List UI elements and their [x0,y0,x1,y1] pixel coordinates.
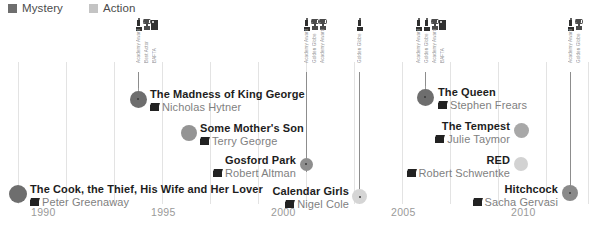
trophy-cup-icon [143,18,150,31]
award-label: Academy Award [567,33,574,63]
clapperboard-icon [150,103,159,111]
axis-tick-2005: 2005 [391,206,416,218]
award-label: Academy Award [415,33,422,63]
clapperboard-icon [285,200,294,208]
legend-item-mystery[interactable]: Mystery [8,2,63,14]
film-director: Nigel Cole [297,198,349,210]
gridline [18,62,19,204]
data-point-bubble[interactable] [181,125,197,141]
clapperboard-icon [200,137,209,145]
film-director: Terry George [212,135,277,147]
data-point-bubble[interactable] [417,89,434,106]
legend-swatch-action [89,4,98,13]
clapperboard-icon [473,198,482,206]
oscar-statuette-icon [356,18,363,31]
clapperboard-icon [213,169,222,177]
gridline [588,62,589,204]
data-point-label: The Tempest Julie Taymor [390,120,510,145]
film-director: Nicholas Hytner [162,101,241,113]
data-point-bubble[interactable] [9,185,27,203]
award-label: Academy Award [303,33,310,63]
film-title: Gosford Park [176,154,296,166]
legend-swatch-mystery [8,4,17,13]
film-title: The Queen [438,86,527,98]
data-point-label: The Cook, the Thief, His Wife and Her Lo… [30,183,263,208]
film-director: Stephen Frears [450,99,527,111]
award-label: Golden Globe [311,33,318,63]
trophy-cup-icon [311,18,318,31]
film-title: The Cook, the Thief, His Wife and Her Lo… [30,183,263,195]
film-title: Calendar Girls [229,185,349,197]
award-label: Golden Globe [356,33,363,63]
award-label-row: Academy Award Golden Globe [567,33,582,63]
award-label: Golden Globe [575,33,582,63]
award-stem [570,72,571,200]
film-director: Robert Altman [225,167,296,179]
data-point-label: Gosford Park Robert Altman [176,154,296,179]
data-point-label: Calendar Girls Nigel Cole [229,185,349,210]
trophy-cup-icon [575,18,582,31]
legend: Mystery Action [8,2,136,14]
oscar-statuette-icon [423,18,430,31]
legend-item-action[interactable]: Action [89,2,136,14]
award-label: Best Actor [143,33,150,63]
film-director: Robert Schwentke [419,167,510,179]
gridline [354,62,355,204]
award-stem [359,72,360,204]
data-point-bubble[interactable] [352,189,367,204]
award-label: Academy Award [319,33,326,63]
film-director: Peter Greenaway [42,196,129,208]
award-label-row: Academy Award Best Actor BAFTA [135,33,158,63]
award-label: BAFTA [151,33,158,63]
award-label: Academy Award [431,33,438,63]
film-director: Sacha Gervasi [485,196,558,208]
award-plaque-icon [151,18,158,31]
data-point-label: The Madness of King George Nicholas Hytn… [150,88,305,113]
data-point-bubble[interactable] [562,185,578,201]
award-label-row: Golden Globe [356,33,363,63]
film-title: Hitchcock [438,183,558,195]
data-point-bubble[interactable] [130,91,147,108]
film-director: Julie Taymor [447,133,510,145]
film-title: The Madness of King George [150,88,305,100]
data-point-bubble[interactable] [300,158,313,171]
legend-label-mystery: Mystery [22,2,63,14]
award-label: BAFTA [439,33,446,63]
award-plaque-icon [439,18,446,31]
data-point-label: The Queen Stephen Frears [438,86,527,111]
film-title: Some Mother's Son [200,122,304,134]
clapperboard-icon [30,198,39,206]
data-point-label: RED Robert Schwentke [390,154,510,179]
film-title: RED [390,154,510,166]
award-label: Academy Award [135,33,142,63]
data-point-label: Some Mother's Son Terry George [200,122,304,147]
clapperboard-icon [435,135,444,143]
award-label-row: Academy Award Golden Globe Academy Award… [415,33,446,63]
clapperboard-icon [438,101,447,109]
data-point-label: Hitchcock Sacha Gervasi [438,183,558,208]
data-point-bubble[interactable] [514,157,528,171]
film-title: The Tempest [390,120,510,132]
award-label: Golden Globe [423,33,430,63]
timeline-chart: Mystery Action 1990 1995 2000 2005 2010 … [0,0,596,246]
award-icon-row [356,18,363,31]
clapperboard-icon [407,169,416,177]
award-label-row: Academy Award Golden Globe Academy Award [303,33,326,63]
legend-label-action: Action [103,2,136,14]
data-point-bubble[interactable] [514,123,529,138]
